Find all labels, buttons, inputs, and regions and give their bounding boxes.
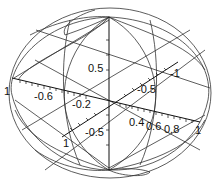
tick-label: 0.8 [164, 123, 179, 135]
tick-label: 0.4 [129, 116, 144, 128]
tick-label: -1 [170, 67, 180, 79]
tick-label: 0.5 [88, 62, 103, 74]
tick-label: 1 [63, 137, 69, 149]
tick-label: -0.6 [34, 90, 53, 102]
tick-label: -0.5 [137, 83, 156, 95]
tick-label: 0.6 [146, 120, 161, 132]
tick-label: -0.5 [85, 126, 104, 138]
parametric-plot: 0.5 -0.5 1 -0.6 -0.2 0.4 0.6 0.8 1 [0, 0, 219, 184]
tick-label: 1 [195, 124, 201, 136]
tick-label: 1 [4, 85, 10, 97]
tick-label: -0.2 [72, 98, 91, 110]
